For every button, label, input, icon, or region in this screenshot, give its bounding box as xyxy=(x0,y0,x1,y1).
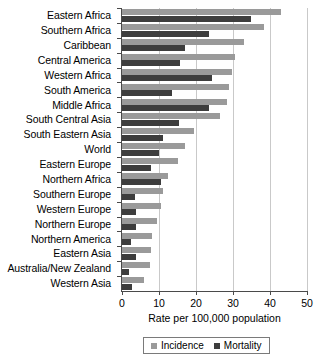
y-axis-tick xyxy=(117,246,121,247)
bar-incidence xyxy=(122,173,168,179)
legend-label-incidence: Incidence xyxy=(161,340,204,351)
gridline xyxy=(307,8,308,291)
legend-swatch-mortality-icon xyxy=(214,343,220,349)
plot-area xyxy=(122,8,307,291)
y-axis-tick-label: Northern Africa xyxy=(0,172,115,187)
bar-incidence xyxy=(122,9,281,15)
y-axis-tick xyxy=(117,68,121,69)
bar-incidence xyxy=(122,158,178,164)
bar-mortality xyxy=(122,239,131,245)
bar-group xyxy=(122,53,307,68)
legend-item-incidence: Incidence xyxy=(151,340,204,351)
x-axis-tick xyxy=(196,291,197,295)
y-axis-tick-label: South Central Asia xyxy=(0,112,115,127)
y-axis-tick xyxy=(117,157,121,158)
bar-group xyxy=(122,231,307,246)
y-axis-tick-label: Southern Europe xyxy=(0,187,115,202)
bar-mortality xyxy=(122,209,136,215)
bar-group xyxy=(122,142,307,157)
bar-group xyxy=(122,216,307,231)
bar-incidence xyxy=(122,69,232,75)
bar-group xyxy=(122,172,307,187)
y-axis-tick-label: Western Europe xyxy=(0,202,115,217)
x-axis-tick-label: 50 xyxy=(301,297,313,309)
y-axis-tick xyxy=(117,82,121,83)
bar-group xyxy=(122,97,307,112)
x-axis-tick-label: 40 xyxy=(264,297,276,309)
x-axis-tick xyxy=(270,291,271,295)
y-axis-tick-label: Western Asia xyxy=(0,276,115,291)
x-axis-tick xyxy=(159,291,160,295)
bar-incidence xyxy=(122,143,185,149)
bar-group xyxy=(122,8,307,23)
bar-incidence xyxy=(122,84,229,90)
y-axis-tick xyxy=(117,217,121,218)
bar-mortality xyxy=(122,179,161,185)
bar-chart: Eastern AfricaSouthern AfricaCaribbeanCe… xyxy=(0,0,326,364)
bar-incidence xyxy=(122,218,157,224)
bar-incidence xyxy=(122,203,161,209)
bar-mortality xyxy=(122,45,185,51)
bar-mortality xyxy=(122,269,129,275)
bar-mortality xyxy=(122,284,132,290)
bar-incidence xyxy=(122,188,163,194)
x-axis-tick-label: 10 xyxy=(153,297,165,309)
y-axis-tick-label: Australia/New Zealand xyxy=(0,261,115,276)
y-axis-tick xyxy=(117,187,121,188)
bar-group xyxy=(122,82,307,97)
y-axis-tick xyxy=(117,142,121,143)
y-axis-tick-label: World xyxy=(0,142,115,157)
bar-group xyxy=(122,68,307,83)
bar-group xyxy=(122,276,307,291)
y-axis-tick xyxy=(117,8,121,9)
y-axis-tick-label: Northern America xyxy=(0,231,115,246)
y-axis-tick xyxy=(117,127,121,128)
x-axis-tick xyxy=(233,291,234,295)
bar-incidence xyxy=(122,54,235,60)
bar-group xyxy=(122,246,307,261)
y-axis-tick-label: South Eastern Asia xyxy=(0,127,115,142)
y-axis-category-labels: Eastern AfricaSouthern AfricaCaribbeanCe… xyxy=(0,8,115,291)
y-axis-tick xyxy=(117,202,121,203)
x-axis-tick xyxy=(122,291,123,295)
bar-groups xyxy=(122,8,307,291)
y-axis-tick-label: Northern Europe xyxy=(0,216,115,231)
bar-mortality xyxy=(122,120,179,126)
bar-incidence xyxy=(122,39,244,45)
bar-group xyxy=(122,38,307,53)
bar-mortality xyxy=(122,16,251,22)
y-axis-tick xyxy=(117,112,121,113)
bar-group xyxy=(122,187,307,202)
bar-group xyxy=(122,157,307,172)
bar-mortality xyxy=(122,60,180,66)
bar-incidence xyxy=(122,24,264,30)
bar-mortality xyxy=(122,194,135,200)
bar-mortality xyxy=(122,254,136,260)
bar-incidence xyxy=(122,247,151,253)
bar-group xyxy=(122,202,307,217)
bar-mortality xyxy=(122,150,159,156)
y-axis-tick xyxy=(117,97,121,98)
x-axis-tick-label: 20 xyxy=(190,297,202,309)
legend-item-mortality: Mortality xyxy=(214,340,262,351)
y-axis-tick-label: Eastern Asia xyxy=(0,246,115,261)
bar-mortality xyxy=(122,90,172,96)
y-axis-tick-label: Southern Africa xyxy=(0,23,115,38)
bar-mortality xyxy=(122,135,163,141)
bar-group xyxy=(122,261,307,276)
bar-mortality xyxy=(122,224,136,230)
bar-incidence xyxy=(122,262,150,268)
legend-swatch-incidence-icon xyxy=(151,343,157,349)
y-axis-tick-label: South America xyxy=(0,82,115,97)
y-axis-tick-label: Eastern Europe xyxy=(0,157,115,172)
bar-group xyxy=(122,112,307,127)
bar-incidence xyxy=(122,128,194,134)
bar-group xyxy=(122,23,307,38)
y-axis-tick xyxy=(117,261,121,262)
y-axis-tick xyxy=(117,276,121,277)
y-axis-tick xyxy=(117,23,121,24)
y-axis-tick-label: Middle Africa xyxy=(0,97,115,112)
y-axis-tick xyxy=(117,38,121,39)
bar-incidence xyxy=(122,99,227,105)
x-axis-line xyxy=(121,291,308,292)
